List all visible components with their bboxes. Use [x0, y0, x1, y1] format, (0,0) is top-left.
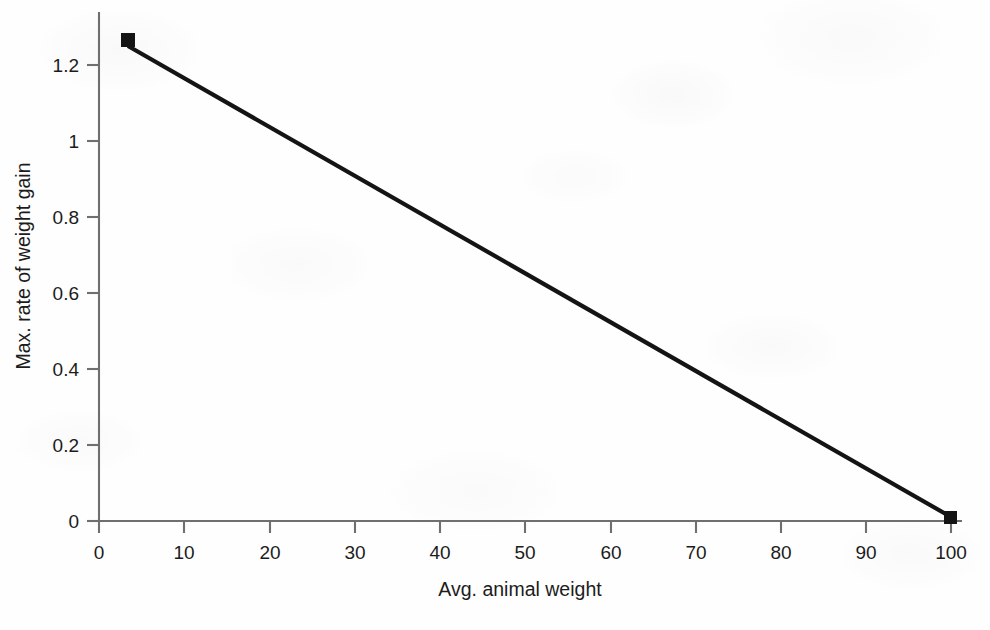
y-tick-label-2: 0.4 [53, 359, 80, 380]
x-tick-label-4: 40 [429, 542, 450, 563]
data-point-marker [944, 511, 957, 524]
x-tick-label-3: 30 [344, 542, 365, 563]
data-series-max-rate-of-weight-gain [121, 33, 957, 524]
x-tick-label-7: 70 [685, 542, 706, 563]
chart-figure: 0 0.2 0.4 0.6 0.8 1 1.2 0 10 20 30 40 50… [0, 0, 990, 630]
series-line [128, 46, 951, 517]
x-axis-tick-marks [99, 521, 951, 533]
y-tick-label-5: 1 [68, 131, 79, 152]
x-tick-label-5: 50 [514, 542, 535, 563]
x-tick-label-10: 100 [935, 542, 967, 563]
data-point-marker [121, 33, 135, 47]
x-tick-label-9: 90 [855, 542, 876, 563]
y-axis-tick-marks [87, 65, 99, 521]
y-tick-label-3: 0.6 [53, 283, 79, 304]
x-tick-label-2: 20 [259, 542, 280, 563]
line-chart-canvas: 0 0.2 0.4 0.6 0.8 1 1.2 0 10 20 30 40 50… [0, 0, 990, 630]
y-tick-label-6: 1.2 [53, 55, 79, 76]
x-axis-tick-labels: 0 10 20 30 40 50 60 70 80 90 100 [94, 542, 967, 563]
y-axis-title: Max. rate of weight gain [12, 162, 34, 369]
x-tick-label-0: 0 [94, 542, 105, 563]
y-tick-label-0: 0 [68, 511, 79, 532]
y-tick-label-1: 0.2 [53, 435, 79, 456]
y-tick-label-4: 0.8 [53, 207, 79, 228]
y-axis-tick-labels: 0 0.2 0.4 0.6 0.8 1 1.2 [53, 55, 80, 532]
x-axis-title: Avg. animal weight [438, 578, 602, 600]
x-tick-label-8: 80 [770, 542, 791, 563]
x-tick-label-1: 10 [173, 542, 194, 563]
x-tick-label-6: 60 [600, 542, 621, 563]
